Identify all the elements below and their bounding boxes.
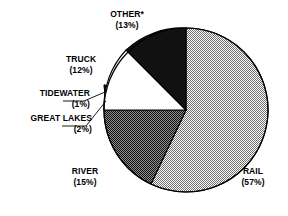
slice-label-truck: TRUCK (12%) [48, 54, 114, 75]
slice-label-rail-name: RAIL [243, 166, 263, 176]
pie-chart-figure: OTHER* (13%) TRUCK (12%) TIDEWATER (1%) … [0, 0, 288, 216]
slice-label-river: RIVER (15%) [56, 166, 114, 187]
slice-label-tidewater-name: TIDEWATER [40, 88, 90, 98]
slice-label-great-lakes-pct: (2%) [0, 124, 92, 135]
slice-label-great-lakes-name: GREAT LAKES [31, 113, 92, 123]
slice-label-truck-pct: (12%) [48, 65, 114, 76]
slice-label-truck-name: TRUCK [66, 54, 96, 64]
slice-label-other-pct: (13%) [94, 20, 160, 31]
slice-label-rail: RAIL (57%) [230, 166, 276, 187]
slice-label-other-name: OTHER* [110, 9, 144, 19]
slice-label-tidewater: TIDEWATER (1%) [6, 88, 90, 109]
slice-label-river-pct: (15%) [56, 177, 114, 188]
slice-label-rail-pct: (57%) [230, 177, 276, 188]
slice-label-river-name: RIVER [72, 166, 98, 176]
slice-label-tidewater-pct: (1%) [6, 99, 90, 110]
slice-label-great-lakes: GREAT LAKES (2%) [0, 113, 92, 134]
slice-label-other: OTHER* (13%) [94, 9, 160, 30]
